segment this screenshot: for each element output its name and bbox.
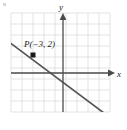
- arrow-right-icon: [108, 70, 115, 77]
- coordinate-graph-figure: y x P(−3, 2): [0, 0, 127, 130]
- graph-canvas: y x P(−3, 2): [0, 0, 127, 130]
- point-marker-p: [31, 53, 36, 58]
- y-axis-label: y: [58, 2, 63, 12]
- plot-background: [11, 13, 110, 112]
- point-label-p: P(−3, 2): [23, 39, 55, 49]
- x-axis-label: x: [116, 69, 121, 79]
